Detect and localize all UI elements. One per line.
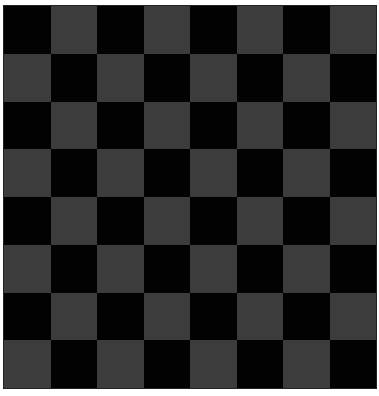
light-square bbox=[144, 293, 191, 341]
dark-square bbox=[97, 6, 144, 54]
dark-square bbox=[97, 197, 144, 245]
light-square bbox=[51, 293, 98, 341]
light-square bbox=[237, 102, 284, 150]
light-square bbox=[283, 340, 330, 388]
light-square bbox=[97, 340, 144, 388]
light-square bbox=[4, 149, 51, 197]
dark-square bbox=[144, 245, 191, 293]
dark-square bbox=[4, 293, 51, 341]
dark-square bbox=[330, 54, 377, 102]
light-square bbox=[237, 6, 284, 54]
light-square bbox=[144, 6, 191, 54]
light-square bbox=[51, 6, 98, 54]
dark-square bbox=[97, 102, 144, 150]
light-square bbox=[144, 197, 191, 245]
dark-square bbox=[330, 149, 377, 197]
dark-square bbox=[283, 293, 330, 341]
dark-square bbox=[237, 340, 284, 388]
light-square bbox=[97, 245, 144, 293]
dark-square bbox=[330, 340, 377, 388]
dark-square bbox=[237, 245, 284, 293]
dark-square bbox=[51, 340, 98, 388]
light-square bbox=[51, 197, 98, 245]
light-square bbox=[190, 340, 237, 388]
light-square bbox=[283, 149, 330, 197]
light-square bbox=[4, 54, 51, 102]
checkerboard bbox=[3, 5, 377, 389]
dark-square bbox=[51, 149, 98, 197]
dark-square bbox=[144, 340, 191, 388]
dark-square bbox=[237, 149, 284, 197]
light-square bbox=[4, 245, 51, 293]
light-square bbox=[97, 54, 144, 102]
dark-square bbox=[4, 102, 51, 150]
light-square bbox=[237, 197, 284, 245]
dark-square bbox=[4, 197, 51, 245]
light-square bbox=[330, 293, 377, 341]
dark-square bbox=[97, 293, 144, 341]
light-square bbox=[4, 340, 51, 388]
light-square bbox=[190, 54, 237, 102]
dark-square bbox=[283, 6, 330, 54]
dark-square bbox=[190, 6, 237, 54]
light-square bbox=[190, 245, 237, 293]
light-square bbox=[97, 149, 144, 197]
dark-square bbox=[51, 245, 98, 293]
dark-square bbox=[330, 245, 377, 293]
dark-square bbox=[190, 102, 237, 150]
dark-square bbox=[4, 6, 51, 54]
dark-square bbox=[237, 54, 284, 102]
light-square bbox=[283, 54, 330, 102]
dark-square bbox=[283, 197, 330, 245]
light-square bbox=[144, 102, 191, 150]
light-square bbox=[237, 293, 284, 341]
dark-square bbox=[144, 54, 191, 102]
light-square bbox=[330, 197, 377, 245]
light-square bbox=[330, 6, 377, 54]
light-square bbox=[330, 102, 377, 150]
dark-square bbox=[190, 197, 237, 245]
light-square bbox=[190, 149, 237, 197]
dark-square bbox=[190, 293, 237, 341]
dark-square bbox=[51, 54, 98, 102]
dark-square bbox=[144, 149, 191, 197]
dark-square bbox=[283, 102, 330, 150]
light-square bbox=[51, 102, 98, 150]
light-square bbox=[283, 245, 330, 293]
